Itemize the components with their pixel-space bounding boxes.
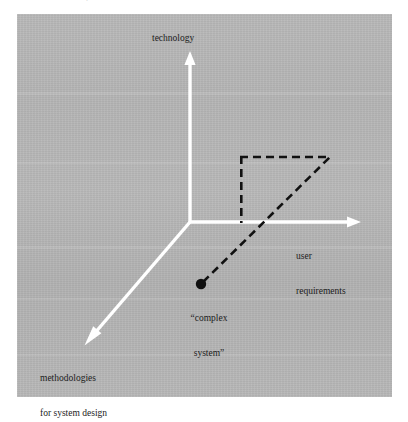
axis-label-methodologies: methodologies for system design (40, 350, 107, 422)
axis-label-methodologies-line1: methodologies (40, 373, 107, 385)
arrowhead-right-icon (347, 217, 361, 228)
axis-label-methodologies-line2: for system design (40, 408, 107, 420)
axis-label-technology: technology (152, 33, 194, 45)
complex-system-marker (196, 279, 206, 289)
point-label-line2: system” (172, 348, 246, 360)
arrowhead-up-icon (184, 51, 195, 65)
axis-technology (184, 51, 195, 222)
axis-label-user-requirements: user requirements (296, 228, 346, 320)
axis-label-user-line2: requirements (296, 286, 346, 298)
point-label-complex-system: “complex system” (172, 290, 246, 382)
axis-user-requirements (190, 217, 361, 228)
point-label-line1: “complex (172, 313, 246, 325)
axis-label-user-line1: user (296, 251, 346, 263)
